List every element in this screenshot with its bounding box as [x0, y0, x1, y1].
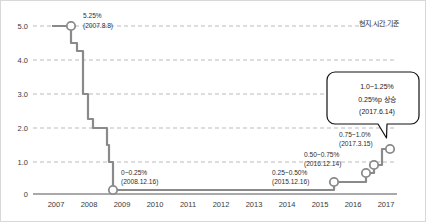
chart-frame: 5.0 4.0 3.0 2.0 1.0 0 2007 2008 2009 201… — [0, 0, 426, 222]
callout-line-3: (2017.6.14) — [359, 108, 395, 116]
callout-line-2: 0.25%p 상승 — [358, 95, 397, 104]
marker-2017-1.125 — [386, 145, 394, 153]
annotation-third-hike-date: (2017.3.15) — [339, 140, 373, 148]
annotation-first-hike-value: 0.25~0.50% — [272, 169, 308, 176]
annotation-peak-rate-value: 5.25% — [83, 12, 102, 19]
y-tick-label-1: 1.0 — [18, 158, 28, 167]
annotation-first-hike: 0.25~0.50% (2015.12.16) — [272, 169, 309, 186]
x-tick-label-2007: 2007 — [48, 200, 65, 209]
x-tick-label-2016: 2016 — [345, 200, 362, 209]
marker-2017-0.875 — [370, 161, 378, 169]
y-tick-label-3: 3.0 — [18, 90, 28, 99]
x-tick-label-2013: 2013 — [246, 200, 263, 209]
annotation-second-hike-value: 0.50~0.75% — [304, 151, 340, 158]
y-tick-label-2: 2.0 — [18, 124, 28, 133]
x-tick-label-2008: 2008 — [81, 200, 98, 209]
x-tick-label-2014: 2014 — [279, 200, 296, 209]
annotation-peak-rate: 5.25% (2007.8.8) — [83, 12, 113, 30]
annotation-second-hike: 0.50~0.75% (2016.12.14) — [304, 151, 341, 168]
annotation-first-hike-date: (2015.12.16) — [272, 178, 309, 186]
x-tick-label-2011: 2011 — [180, 200, 196, 209]
annotation-peak-rate-date: (2007.8.8) — [83, 22, 113, 30]
y-tick-label-0: 0 — [24, 190, 28, 199]
x-tick-label-2012: 2012 — [213, 200, 230, 209]
annotation-zero-bound-date: (2008.12.16) — [121, 178, 158, 186]
annotation-third-hike: 0.75~1.0% (2017.3.15) — [339, 131, 373, 148]
annotation-zero-bound: 0~0.25% (2008.12.16) — [121, 169, 158, 186]
marker-2008-0.125 — [109, 186, 117, 194]
y-tick-label-4: 4.0 — [18, 56, 28, 65]
callout-line-1: 1.0~1.25% — [360, 83, 394, 90]
x-tick-label-2015: 2015 — [312, 200, 329, 209]
annotation-second-hike-date: (2016.12.14) — [304, 160, 341, 168]
marker-2015-0.375 — [330, 178, 338, 186]
x-tick-label-2017: 2017 — [378, 200, 395, 209]
y-tick-label-5: 5.0 — [18, 22, 28, 31]
marker-2016-0.625 — [362, 169, 370, 177]
annotation-zero-bound-value: 0~0.25% — [121, 169, 147, 176]
interest-rate-step-chart: 5.0 4.0 3.0 2.0 1.0 0 2007 2008 2009 201… — [1, 1, 426, 222]
x-tick-label-2009: 2009 — [114, 200, 131, 209]
local-time-note: 현지 시간 기준 — [359, 19, 400, 28]
marker-2007-5.25 — [67, 22, 75, 30]
annotation-third-hike-value: 0.75~1.0% — [339, 131, 371, 138]
x-tick-label-2010: 2010 — [147, 200, 164, 209]
